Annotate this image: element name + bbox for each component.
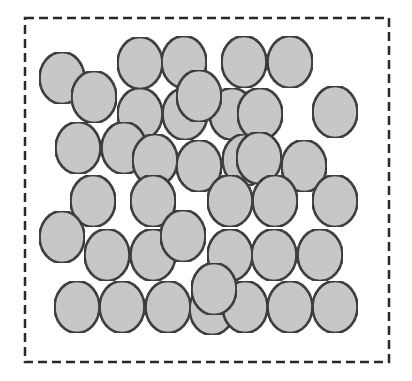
particle-circle xyxy=(192,263,237,315)
particle-circle xyxy=(298,229,343,281)
particle-circle xyxy=(56,122,101,174)
particle-circle xyxy=(268,281,313,333)
particle-circle xyxy=(268,36,313,88)
particle-circle xyxy=(161,210,206,262)
particle-circle xyxy=(252,229,297,281)
particle-circle xyxy=(72,71,117,123)
particle-circle xyxy=(100,281,145,333)
particle-circle xyxy=(55,281,100,333)
particle-circle xyxy=(85,229,130,281)
particle-circle xyxy=(313,281,358,333)
particle-circle xyxy=(40,211,85,263)
particle-circle xyxy=(208,175,253,227)
particle-circle xyxy=(177,70,222,122)
particle-circle xyxy=(146,281,191,333)
particles-group xyxy=(40,36,358,335)
particle-circle xyxy=(313,86,358,138)
particle-packing-figure xyxy=(0,0,412,381)
particle-circle xyxy=(313,175,358,227)
particle-circle xyxy=(118,37,163,89)
particle-circle xyxy=(222,36,267,88)
particle-circle xyxy=(253,175,298,227)
